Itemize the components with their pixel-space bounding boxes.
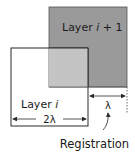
layer-registration-diagram: Layer i + 1 Layer i 2λ λ Registration	[0, 0, 135, 156]
layer-i-plus-1-label: Layer i + 1	[62, 21, 122, 34]
offset-dimension-label: λ	[105, 100, 111, 111]
layer-i-label: Layer i	[21, 98, 58, 111]
width-dimension: 2λ	[13, 114, 86, 125]
registration-pointer-arrow	[103, 113, 108, 130]
offset-dimension: λ	[90, 87, 127, 114]
width-dimension-label: 2λ	[43, 114, 55, 125]
overlap-region	[49, 48, 88, 87]
registration-label: Registration	[60, 137, 129, 151]
